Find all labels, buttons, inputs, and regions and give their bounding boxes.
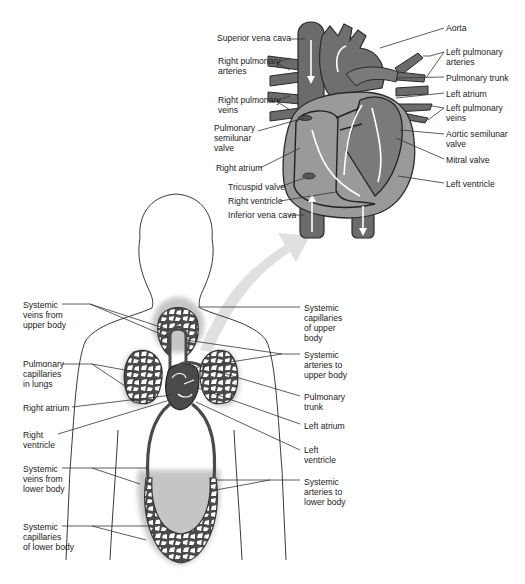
label-pulmonary-trunk-heart: Pulmonary trunk [446, 73, 509, 83]
label-right-pulmonary-arteries: Right pulmonary arteries [218, 56, 281, 76]
zoom-arrow [200, 233, 310, 352]
label-left-pulmonary-arteries: Left pulmonary arteries [446, 47, 503, 67]
label-mitral-valve: Mitral valve [446, 155, 489, 165]
label-systemic-capillaries-upper-body: Systemic capillaries of upper body [304, 303, 342, 343]
label-left-ventricle-heart: Left ventricle [446, 179, 495, 189]
label-tricuspid-valve: Tricuspid valve [228, 182, 285, 192]
label-right-ventricle-body: Right ventricle [23, 430, 55, 450]
heart-detail [268, 22, 432, 238]
label-systemic-veins-lower-body: Systemic veins from lower body [23, 464, 65, 494]
label-systemic-veins-upper-body: Systemic veins from upper body [23, 300, 66, 330]
label-systemic-arteries-upper-body: Systemic arteries to upper body [304, 350, 347, 380]
label-left-atrium-heart: Left atrium [446, 89, 487, 99]
label-left-ventricle-body: Left ventricle [304, 445, 336, 465]
label-superior-vena-cava: Superior vena cava [217, 33, 291, 43]
label-inferior-vena-cava: Inferior vena cava [228, 210, 296, 220]
label-right-pulmonary-veins: Right pulmonary veins [218, 95, 281, 115]
label-right-atrium-heart: Right atrium [216, 163, 262, 173]
body-circulation [122, 297, 240, 565]
label-left-pulmonary-veins: Left pulmonary veins [446, 103, 503, 123]
label-aortic-semilunar-valve: Aortic semilunar valve [446, 129, 508, 149]
label-right-ventricle-heart: Right ventricle [228, 196, 282, 206]
label-systemic-capillaries-lower-body: Systemic capillaries of lower body [23, 522, 74, 552]
diagram-artwork [0, 0, 525, 584]
label-left-atrium-body: Left atrium [304, 421, 345, 431]
label-pulmonary-trunk-body: Pulmonary trunk [304, 392, 345, 412]
circulatory-system-diagram: Superior vena cava Right pulmonary arter… [0, 0, 525, 584]
label-pulmonary-capillaries-lungs: Pulmonary capillaries in lungs [23, 359, 64, 389]
label-systemic-arteries-lower-body: Systemic arteries to lower body [304, 477, 346, 507]
label-aorta: Aorta [446, 23, 467, 33]
label-pulmonary-semilunar-valve: Pulmonary semilunar valve [214, 123, 255, 153]
label-right-atrium-body: Right atrium [23, 403, 69, 413]
